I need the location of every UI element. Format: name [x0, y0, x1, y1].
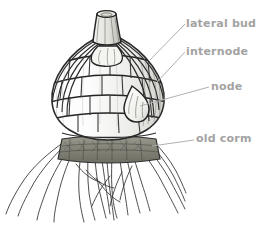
corm-diagram-figure: lateral bud internode node old corm: [0, 0, 266, 237]
leader-old-corm: [152, 140, 194, 146]
leader-lateral-bud: [150, 24, 185, 60]
label-old-corm: old corm: [196, 133, 252, 145]
label-internode: internode: [186, 46, 248, 58]
label-lateral-bud: lateral bud: [186, 18, 256, 30]
apex-scale-part: [91, 46, 122, 66]
corm-illustration: [0, 0, 266, 237]
stem-stub-part: [93, 11, 121, 45]
leader-internode: [157, 52, 185, 82]
label-node: node: [211, 81, 243, 93]
